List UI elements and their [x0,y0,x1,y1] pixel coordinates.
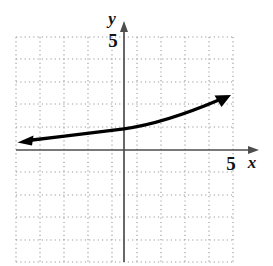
x-axis [16,146,259,154]
curve-left-arrow-icon [18,136,34,146]
y-axis-arrow-icon [120,21,128,32]
graph-figure: y 5 5 x [0,0,273,266]
coordinate-plane: y 5 5 x [0,0,273,266]
x-axis-label: x [247,153,257,172]
y-axis-label: y [106,9,116,28]
x-axis-tick-label-5: 5 [226,153,236,174]
y-axis-tick-label-5: 5 [108,30,118,51]
y-axis [120,21,128,262]
